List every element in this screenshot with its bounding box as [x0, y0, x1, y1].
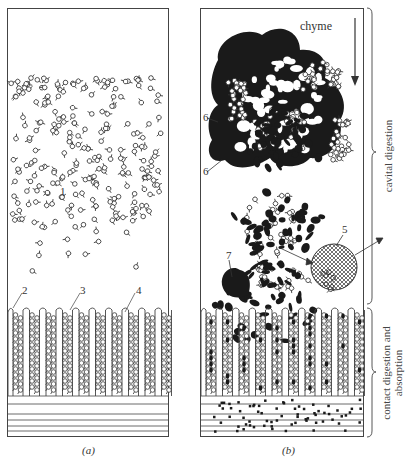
zone-label-contact-line1: contact digestion and [380, 308, 392, 438]
label-1: 1 [60, 186, 66, 197]
membrane-layers-a [7, 396, 168, 431]
chyme-flow-arrow [351, 18, 359, 86]
label-6a: 6 [203, 112, 209, 123]
membrane-layers-b [200, 396, 364, 431]
microvilli-b [201, 308, 365, 396]
label-7: 7 [226, 250, 232, 261]
zone-braces [367, 8, 376, 437]
chyme-label: chyme [300, 20, 332, 32]
caption-b: (b) [282, 444, 295, 456]
caption-a: (a) [82, 444, 95, 456]
microvilli-a [8, 308, 172, 396]
panel-a [7, 9, 172, 437]
label-4: 4 [136, 285, 142, 296]
label-5: 5 [342, 224, 348, 235]
zone-label-cavital: cavital digestion [382, 106, 394, 206]
digestion-diagram [0, 0, 411, 462]
enzyme-molecules [7, 74, 164, 274]
label-3: 3 [80, 285, 86, 296]
bacterium-5 [311, 244, 357, 290]
panel-b [200, 9, 383, 437]
label-6b: 6 [203, 166, 209, 177]
label-2: 2 [22, 285, 28, 296]
zone-label-contact-line2: absorption [392, 318, 404, 428]
